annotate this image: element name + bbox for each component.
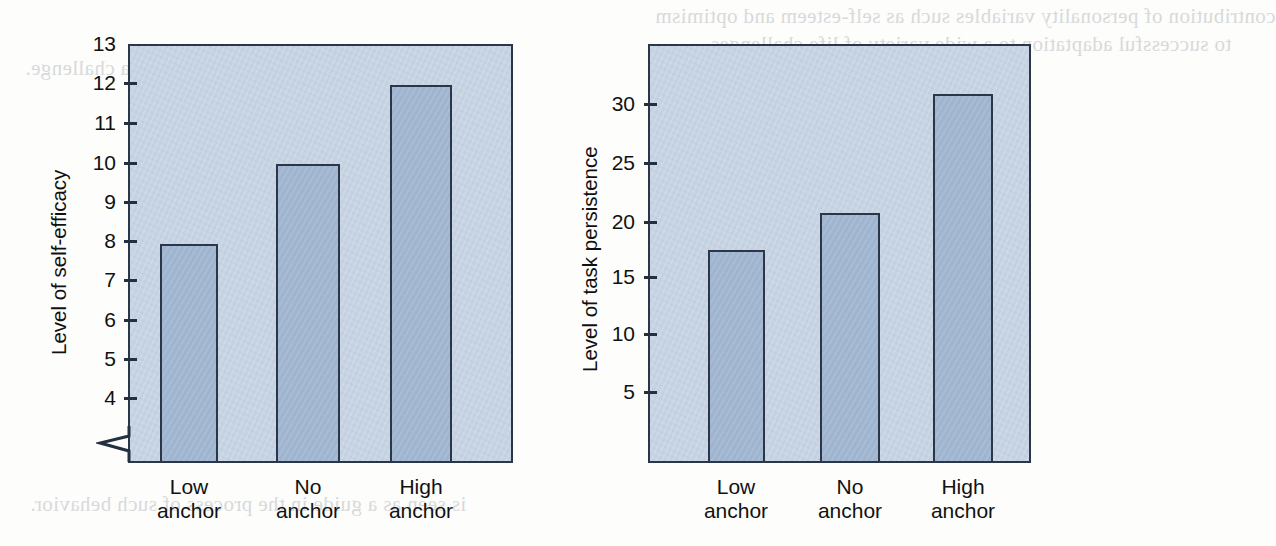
y-tick-6	[124, 319, 137, 322]
bar-high-anchor-task-persistence	[933, 94, 993, 463]
bar-no-anchor-task-persistence	[820, 213, 880, 463]
y-tick-7	[124, 279, 137, 282]
cat-line-1: Low	[717, 475, 756, 498]
y-tick-5	[124, 358, 137, 361]
y-axis-break-icon	[96, 424, 132, 464]
y-tick-label-10: 10	[592, 323, 635, 344]
bar-no-anchor-self-efficacy	[276, 164, 340, 463]
y-tick-label-30: 30	[592, 93, 635, 114]
y-tick-label-25: 25	[592, 152, 635, 173]
y-tick-10	[644, 333, 657, 336]
cat-line-2: anchor	[818, 499, 882, 522]
y-tick-15	[644, 276, 657, 279]
bar-low-anchor-task-persistence	[708, 250, 765, 463]
y-tick-12	[124, 82, 137, 85]
y-tick-label-20: 20	[592, 211, 635, 232]
cat-line-2: anchor	[931, 499, 995, 522]
y-tick-30	[644, 103, 657, 106]
cat-line-2: anchor	[704, 499, 768, 522]
x-category-label-high-anchor-task-persistence: High anchor	[913, 475, 1013, 524]
cat-line-1: No	[837, 475, 864, 498]
cat-line-1: High	[941, 475, 984, 498]
x-category-label-no-anchor-task-persistence: No anchor	[800, 475, 900, 524]
y-tick-8	[124, 240, 137, 243]
y-tick-4	[124, 397, 137, 400]
y-tick-10	[124, 162, 137, 165]
bar-low-anchor-self-efficacy	[160, 244, 218, 463]
y-tick-5	[644, 391, 657, 394]
y-tick-20	[644, 221, 657, 224]
x-category-label-low-anchor-task-persistence: Low anchor	[686, 475, 786, 524]
y-tick-label-15: 15	[592, 266, 635, 287]
y-tick-25	[644, 162, 657, 165]
y-tick-11	[124, 122, 137, 125]
y-tick-label-5: 5	[592, 381, 635, 402]
bar-high-anchor-self-efficacy	[390, 85, 452, 463]
y-tick-9	[124, 201, 137, 204]
